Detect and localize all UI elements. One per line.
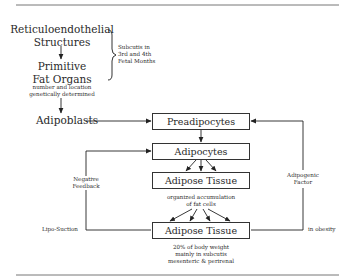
arrow-adipocytes-to-tissue-left — [186, 160, 196, 171]
primitive-label: Primitive Fat Organs — [10, 61, 114, 84]
left-loop-upper — [86, 151, 151, 176]
final-note-line2: mainly in subcutis — [146, 251, 256, 258]
final-note-line3: mesenteric & perirenal — [146, 258, 256, 265]
brace-note-line2: 3rd and 4th — [118, 51, 155, 58]
arrow-fatcells-4 — [208, 209, 230, 221]
brace-note-line3: Fetal Months — [118, 58, 155, 65]
arrow-fatcells-3 — [203, 209, 210, 221]
right-loop-lower — [251, 188, 303, 230]
adipogenic-factor-line1: Adipogenic — [281, 172, 325, 179]
arrow-fatcells-2 — [190, 209, 197, 221]
negative-feedback-label: Negative Feedback — [66, 176, 106, 190]
brace-note: Subcutis in 3rd and 4th Fetal Months — [118, 44, 155, 66]
in-obesity-label: in obesity — [308, 226, 336, 233]
primitive-line1: Primitive — [10, 61, 114, 72]
adipoblasts-label: Adipoblasts — [36, 115, 98, 126]
primitive-note: number and location genetically determin… — [10, 84, 114, 98]
negative-feedback-line2: Feedback — [66, 183, 106, 190]
primitive-line2: Fat Organs — [10, 74, 114, 85]
lipo-suction-label: Lipo-Suction — [42, 226, 78, 233]
primitive-note-line2: genetically determined — [10, 91, 114, 98]
arrow-fatcells-1 — [170, 209, 192, 221]
negative-feedback-line1: Negative — [66, 176, 106, 183]
brace-note-line1: Subcutis in — [118, 44, 155, 51]
left-loop-lower — [86, 190, 151, 230]
tissue-note-line2: of fat cells — [152, 201, 250, 208]
origin-label: Reticuloendothelial Structures — [10, 24, 114, 47]
right-loop-upper — [251, 121, 303, 170]
adipocytes-box: Adipocytes — [152, 143, 250, 160]
arrow-adipocytes-to-tissue-right — [206, 160, 216, 171]
adipogenic-factor-line2: Factor — [281, 179, 325, 186]
adipogenic-factor-label: Adipogenic Factor — [281, 172, 325, 186]
adipose-tissue-box-1: Adipose Tissue — [152, 172, 250, 189]
adipose-tissue-box-2: Adipose Tissue — [152, 222, 250, 239]
tissue-note-line1: organized accumulation — [152, 194, 250, 201]
origin-line2: Structures — [10, 37, 114, 48]
primitive-note-line1: number and location — [10, 84, 114, 91]
final-note-line1: 20% of body weight — [146, 244, 256, 251]
tissue-note: organized accumulation of fat cells — [152, 194, 250, 208]
preadipocytes-box: Preadipocytes — [152, 113, 250, 130]
final-note: 20% of body weight mainly in subcutis me… — [146, 244, 256, 266]
origin-line1: Reticuloendothelial — [10, 24, 114, 35]
